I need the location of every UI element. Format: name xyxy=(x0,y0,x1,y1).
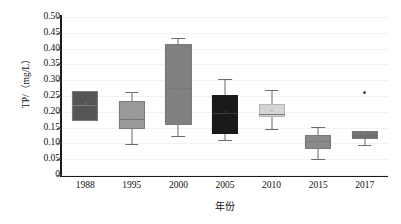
whisker-upper xyxy=(318,127,319,135)
whisker-upper xyxy=(131,92,132,101)
whisker-cap-upper xyxy=(125,92,139,93)
whisker-upper xyxy=(271,90,272,104)
whisker-cap-upper xyxy=(218,79,232,80)
x-axis-tick-label: 1988 xyxy=(76,180,95,190)
whisker-cap-lower xyxy=(172,136,186,137)
x-axis-tick-label: 2017 xyxy=(355,180,374,190)
x-axis-tick-label: 2010 xyxy=(262,180,281,190)
y-axis-tick-labels: 0.500.450.400.350.300.250.200.150.100.05… xyxy=(30,12,60,178)
x-axis-tick-label: 2005 xyxy=(216,180,235,190)
x-axis-tick-label: 2000 xyxy=(169,180,188,190)
mean-marker: × xyxy=(270,108,274,115)
whisker-lower xyxy=(271,117,272,128)
box-plot-series[interactable]: × xyxy=(248,17,295,175)
y-axis-tick xyxy=(57,64,61,65)
whisker-cap-lower xyxy=(125,144,139,145)
y-axis-tick xyxy=(57,49,61,50)
whisker-lower xyxy=(131,129,132,144)
whisker-cap-lower xyxy=(218,140,232,141)
whisker-cap-lower xyxy=(358,145,372,146)
box-plot-series[interactable]: × xyxy=(341,17,388,175)
x-axis-tick-labels: 1988199520002005201020152017 xyxy=(62,180,388,196)
y-axis-tick xyxy=(57,33,61,34)
box-plot-series[interactable]: × xyxy=(155,17,202,175)
mean-marker: × xyxy=(223,109,227,116)
y-axis-tick xyxy=(57,112,61,113)
mean-marker: × xyxy=(363,130,367,137)
mean-marker: × xyxy=(130,114,134,121)
whisker-lower xyxy=(178,125,179,136)
y-axis-tick xyxy=(57,175,61,176)
mean-marker: × xyxy=(316,138,320,145)
mean-marker: × xyxy=(83,101,87,108)
whisker-cap-lower xyxy=(311,159,325,160)
y-axis-tick xyxy=(57,143,61,144)
y-axis-tick xyxy=(57,80,61,81)
box-plot-series[interactable]: × xyxy=(62,17,109,175)
box-plot-series[interactable]: × xyxy=(109,17,156,175)
x-axis-tick-label: 2015 xyxy=(309,180,328,190)
gridline xyxy=(62,175,388,176)
whisker-cap-upper xyxy=(265,90,279,91)
mean-marker: × xyxy=(176,85,180,92)
x-axis-tick-label: 1995 xyxy=(122,180,141,190)
x-axis-title: 年份 xyxy=(62,198,388,213)
y-axis-tick xyxy=(57,128,61,129)
box-plot-figure: TP/（mg/L） 0.500.450.400.350.300.250.200.… xyxy=(0,0,401,224)
whisker-cap-upper xyxy=(172,38,186,39)
whisker-cap-lower xyxy=(265,129,279,130)
y-axis-tick xyxy=(57,17,61,18)
whisker-cap-upper xyxy=(311,127,325,128)
y-axis-tick xyxy=(57,96,61,97)
outlier-point[interactable] xyxy=(363,91,366,94)
box-plot-series[interactable]: × xyxy=(202,17,249,175)
box-plot-series[interactable]: × xyxy=(295,17,342,175)
whisker-lower xyxy=(318,149,319,159)
plot-area: ××××××× xyxy=(62,17,388,175)
y-axis-tick xyxy=(57,159,61,160)
whisker-upper xyxy=(224,79,225,96)
